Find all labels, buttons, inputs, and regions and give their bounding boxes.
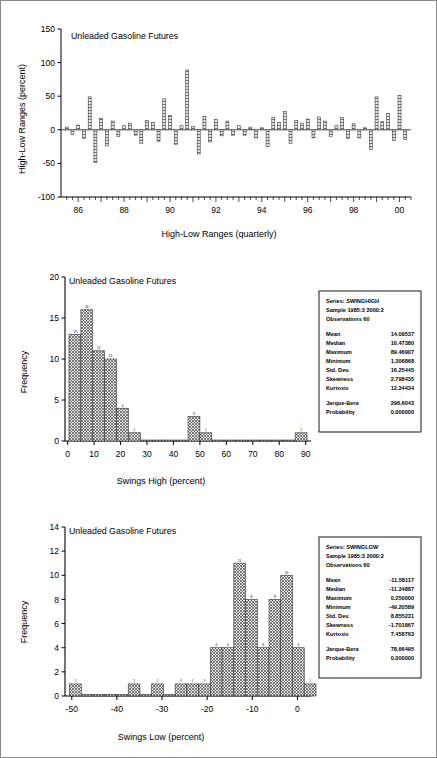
bar [237, 126, 240, 130]
stats-row-label: Skewness [326, 376, 353, 382]
bar-count-label: 8 [274, 595, 276, 599]
bar [77, 125, 80, 130]
bar-count-label: 1 [192, 679, 194, 683]
axis-label-y-bar: High-Low Ranges (percent) [17, 64, 27, 174]
x-tick-label: -30 [156, 704, 169, 714]
histogram-bar [234, 563, 246, 696]
chart-title-bar: Unleaded Gasoline Futures [71, 31, 179, 41]
histogram-bar [175, 684, 187, 696]
bar-count-label: 1 [300, 428, 302, 432]
histogram-bar [246, 599, 258, 696]
stats-row-value: 8.855231 [391, 613, 414, 619]
chart-high-low-ranges: High-Low Ranges (percent) Unleaded Gasol… [1, 1, 437, 247]
y-tick-label: 12 [50, 546, 60, 556]
page-root: High-Low Ranges (percent) Unleaded Gasol… [0, 0, 437, 758]
bar [375, 97, 378, 130]
stats-test-label: Jarque-Bera [326, 400, 360, 406]
bar [387, 114, 390, 130]
axis-label-x-bar: High-Low Ranges (quarterly) [161, 229, 276, 239]
y-tick-label: 10 [50, 354, 60, 364]
stats-row-value: -49.20589 [389, 604, 414, 610]
histogram-bar [164, 440, 176, 441]
histogram-bar [283, 440, 295, 441]
histogram-bar [140, 695, 152, 696]
bar [404, 130, 407, 139]
swings-low-plot-area: 14121086420-50-40-30-20-1001111114411848… [50, 522, 316, 714]
y-tick-label: 0 [54, 436, 59, 446]
y-tick-label: 5 [54, 395, 59, 405]
stats-observations-line: Observations 60 [326, 316, 370, 322]
bar [111, 121, 114, 130]
bar [232, 130, 235, 135]
y-tick-label: 15 [50, 313, 60, 323]
bar-count-label: 4 [262, 643, 264, 647]
bar [203, 116, 206, 129]
bar [134, 130, 137, 135]
stats-test-label: Probability [326, 655, 356, 661]
y-tick-label-bar: 150 [41, 24, 55, 34]
histogram-bar [295, 433, 307, 441]
bar-count-label: 4 [215, 643, 217, 647]
bar-count-label: 8 [251, 595, 253, 599]
x-tick-label-bar: 90 [165, 205, 175, 215]
x-tick-label: 20 [116, 449, 126, 459]
histogram-bar [128, 433, 140, 441]
bar [335, 126, 338, 130]
stats-row-label: Median [326, 340, 346, 346]
histogram-bar [152, 684, 164, 696]
bar-count-label: 11 [238, 559, 242, 563]
bar [289, 130, 292, 143]
bar-count-label: 1 [204, 679, 206, 683]
stats-row-label: Skewness [326, 622, 353, 628]
histogram-bar [116, 695, 128, 696]
histogram-bar [81, 310, 93, 441]
stats-row-label: Minimum [326, 604, 351, 610]
swings-low-stats-box: Series: SWINGLOWSample 1985:3 2000:2Obse… [319, 537, 421, 678]
x-tick-label: 40 [169, 449, 179, 459]
y-tick-label: 0 [54, 691, 59, 701]
histogram-bar [117, 408, 129, 441]
bar [94, 130, 97, 163]
bar [278, 122, 281, 129]
x-tick-label: 60 [222, 449, 232, 459]
stats-observations-line: Observations 60 [326, 562, 370, 568]
stats-row-value: 0.250000 [391, 595, 414, 601]
bar [243, 130, 246, 135]
bar [381, 122, 384, 130]
stats-row-label: Std. Dev. [326, 367, 350, 373]
y-tick-label: 8 [54, 595, 59, 605]
bar-count-label: 1 [205, 428, 207, 432]
stats-row-value: 89.46907 [391, 349, 414, 355]
histogram-bar [292, 648, 304, 696]
y-tick-label: 6 [54, 619, 59, 629]
bar [140, 130, 143, 143]
axis-label-x-high: Swings High (percent) [117, 476, 206, 486]
bar [163, 99, 166, 130]
stats-row-label: Mean [326, 331, 341, 337]
bar-count-label: 3 [193, 412, 195, 416]
x-tick-label: 90 [301, 449, 311, 459]
bar [209, 130, 212, 142]
histogram-bar [69, 334, 81, 441]
bar-count-label: 13 [73, 330, 77, 334]
bar-count-label: 1 [180, 679, 182, 683]
histogram-bar [269, 599, 281, 696]
bar [318, 117, 321, 130]
histogram-bar [105, 695, 117, 696]
x-tick-label: -40 [111, 704, 124, 714]
bar-count-label: 4 [297, 643, 299, 647]
x-tick-label-bar: 00 [395, 205, 405, 215]
swings-high-plot-area: 2015105001020304050607080901316111041311 [50, 272, 311, 459]
x-tick-label-bar: 86 [73, 205, 83, 215]
bar [186, 70, 189, 130]
y-tick-label: 14 [50, 522, 60, 532]
histogram-bar [248, 440, 260, 441]
stats-sample-line: Sample 1985:3 2000:2 [326, 553, 384, 559]
bar [249, 127, 252, 130]
bar-count-label: 1 [157, 679, 159, 683]
axis-label-y-low: Frequency [19, 600, 29, 643]
x-tick-label: 0 [295, 704, 300, 714]
x-tick-label: -20 [201, 704, 214, 714]
bar-count-label: 1 [133, 679, 135, 683]
stats-row-value: 2.798435 [391, 376, 414, 382]
